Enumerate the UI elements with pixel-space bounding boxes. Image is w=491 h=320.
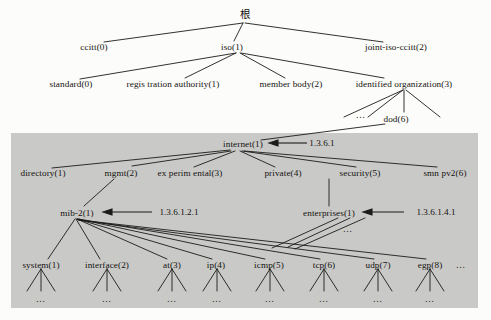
node-system[interactable]: system(1) bbox=[22, 260, 59, 270]
edge-mib2-ip bbox=[77, 219, 212, 259]
leaf-stem-udp-1 bbox=[364, 269, 378, 291]
leaf-stem-ip-3 bbox=[217, 269, 231, 291]
leaf-stem-interface-1 bbox=[93, 269, 107, 291]
edge-root-ccitt bbox=[104, 23, 243, 42]
node-root[interactable]: 根 bbox=[240, 6, 250, 21]
leaf-stem-system-3 bbox=[41, 269, 55, 291]
leaf-stem-egp-3 bbox=[430, 269, 444, 291]
leaf-stem-at-3 bbox=[172, 269, 186, 291]
ellipsis-egp-trailing: … bbox=[456, 260, 467, 270]
node-private[interactable]: private(4) bbox=[264, 168, 301, 178]
edge-iso-regis bbox=[185, 53, 236, 78]
node-interface[interactable]: interface(2) bbox=[85, 260, 129, 270]
ellipsis-leaf-tcp: … bbox=[319, 294, 330, 304]
node-mgmt[interactable]: mgmt(2) bbox=[105, 168, 138, 178]
ellipsis-leaf-icmp: … bbox=[265, 294, 276, 304]
node-registration-authority[interactable]: regis tration authority(1) bbox=[127, 79, 220, 89]
edge-internet-directory bbox=[52, 150, 230, 168]
edge-enterprises-child-b bbox=[288, 218, 350, 247]
leaf-stem-udp-3 bbox=[378, 269, 392, 291]
node-snmpv2[interactable]: smn pv2(6) bbox=[423, 168, 466, 178]
leaf-stem-icmp-1 bbox=[256, 269, 270, 291]
node-member-body[interactable]: member body(2) bbox=[260, 79, 323, 89]
ellipsis-leaf-udp: … bbox=[373, 294, 384, 304]
oid-enterprises: 1.3.6.1.4.1 bbox=[416, 207, 455, 217]
node-tcp[interactable]: tcp(6) bbox=[313, 260, 336, 270]
node-enterprises[interactable]: enterprises(1) bbox=[303, 208, 355, 218]
arrow-mib2-oid bbox=[103, 209, 152, 215]
node-egp[interactable]: egp(8) bbox=[418, 260, 443, 270]
edge-enterprises-child-a bbox=[272, 218, 338, 248]
edge-iso-standard bbox=[80, 53, 236, 79]
node-security[interactable]: security(5) bbox=[340, 168, 381, 178]
node-at[interactable]: at(3) bbox=[163, 260, 181, 270]
edge-mib2-icmp bbox=[78, 219, 265, 259]
node-icmp[interactable]: icmp(5) bbox=[254, 260, 284, 270]
ellipsis-leaf-egp: … bbox=[425, 294, 436, 304]
leaf-stem-tcp-1 bbox=[310, 269, 324, 291]
node-experimental[interactable]: ex perim ental(3) bbox=[158, 168, 223, 178]
leaf-stem-at-1 bbox=[158, 269, 172, 291]
leaf-stem-interface-3 bbox=[107, 269, 121, 291]
edge-mib2-egp bbox=[79, 220, 426, 259]
edge-mgmt-mib2 bbox=[84, 179, 114, 206]
edge-mib2-system bbox=[48, 219, 75, 259]
edge-enterprises-child-c bbox=[295, 218, 365, 249]
oid-internet: 1.3.6.1 bbox=[309, 138, 334, 148]
node-internet[interactable]: internet(1) bbox=[223, 139, 263, 149]
ellipsis-leaf-interface: … bbox=[102, 294, 113, 304]
arrow-enterprises-oid bbox=[363, 209, 404, 215]
oid-mib-2: 1.3.6.1.2.1 bbox=[159, 207, 198, 217]
leaf-stem-egp-1 bbox=[416, 269, 430, 291]
node-standard[interactable]: standard(0) bbox=[50, 79, 93, 89]
leaf-stem-ip-1 bbox=[203, 269, 217, 291]
edge-identified-child-d bbox=[406, 90, 440, 117]
node-ip[interactable]: ip(4) bbox=[207, 260, 225, 270]
ellipsis-leaf-ip: … bbox=[212, 294, 223, 304]
edge-root-joint bbox=[245, 23, 383, 42]
node-iso[interactable]: iso(1) bbox=[221, 42, 243, 52]
node-identified-organization[interactable]: identified organization(3) bbox=[356, 79, 453, 89]
node-directory[interactable]: directory(1) bbox=[20, 168, 65, 178]
edge-root-iso bbox=[234, 23, 243, 41]
leaf-stem-tcp-3 bbox=[324, 269, 338, 291]
node-dod[interactable]: dod(6) bbox=[383, 114, 408, 124]
ellipsis-dod-siblings: … bbox=[356, 110, 367, 120]
ellipsis-leaf-system: … bbox=[36, 294, 47, 304]
leaf-stem-icmp-3 bbox=[270, 269, 284, 291]
ellipsis-leaf-at: … bbox=[167, 294, 178, 304]
node-mib-2[interactable]: mib-2(1) bbox=[60, 208, 93, 218]
node-ccitt[interactable]: ccitt(0) bbox=[80, 42, 107, 52]
oid-tree-figure: 根 ccitt(0) iso(1) joint-iso-ccitt(2) sta… bbox=[0, 0, 491, 320]
node-udp[interactable]: udp(7) bbox=[365, 260, 390, 270]
leaf-stem-system-1 bbox=[27, 269, 41, 291]
arrow-internet-oid bbox=[269, 140, 307, 146]
ellipsis-enterprises-children: … bbox=[343, 224, 354, 234]
node-joint-iso-ccitt[interactable]: joint-iso-ccitt(2) bbox=[365, 42, 427, 52]
